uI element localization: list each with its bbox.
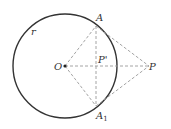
label-O: O [54,61,62,72]
label-P: P [148,61,156,72]
label-A: A [95,12,103,23]
segment-OA [65,26,96,66]
label-A1-main: A [95,110,103,121]
geometry-diagram: r O A P' P A1 [0,0,171,129]
label-A1-sub: 1 [103,115,107,123]
label-Pprime: P' [97,54,107,65]
point-O-dot [63,64,66,67]
label-A1: A1 [95,110,108,123]
label-r: r [31,26,37,37]
segment-OA1 [65,66,96,106]
